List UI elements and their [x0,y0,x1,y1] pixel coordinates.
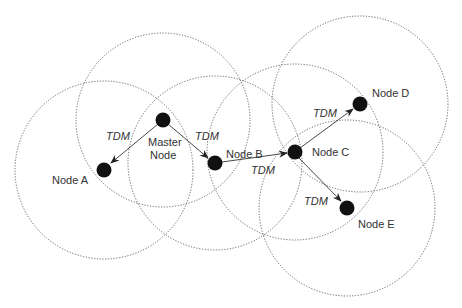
node-b [208,156,223,171]
node-e [340,201,355,216]
network-diagram: Master Node Node A Node B Node C Node D … [0,0,462,308]
tdm-labels: TDM TDM TDM TDM TDM [106,107,338,207]
label-node-c: Node C [312,146,349,158]
tdm-label-c-d: TDM [313,107,338,119]
node-master [156,113,171,128]
label-node-e: Node E [358,218,395,230]
label-node-b: Node B [226,148,263,160]
node-d [353,97,368,112]
label-master-line1: Master [148,136,182,148]
label-node-d: Node D [372,87,409,99]
tdm-label-b-c: TDM [251,164,276,176]
tdm-label-master-a: TDM [106,130,131,142]
node-a [97,163,112,178]
label-master-line2: Node [150,149,176,161]
tdm-label-master-b: TDM [195,130,220,142]
label-node-a: Node A [52,174,89,186]
node-c [288,145,303,160]
tdm-label-c-e: TDM [304,195,329,207]
